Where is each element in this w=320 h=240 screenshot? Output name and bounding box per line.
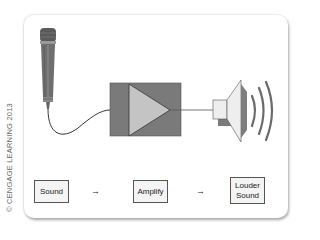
speaker-icon xyxy=(213,80,247,142)
flow-step-label-line2: Sound xyxy=(236,191,259,201)
flow-step-label: Amplify xyxy=(137,187,163,197)
flow-arrow-icon: → xyxy=(91,186,100,196)
flow-arrow-icon: → xyxy=(196,186,205,196)
flow-step-label: Sound xyxy=(40,187,63,197)
amplifier-icon xyxy=(110,83,181,136)
flow-step-sound: Sound xyxy=(34,180,69,203)
flow-step-louder-sound: Louder Sound xyxy=(230,177,265,204)
sound-waves-icon xyxy=(252,82,272,140)
flow-step-label-line1: Louder xyxy=(235,181,260,191)
microphone-icon xyxy=(40,28,56,109)
flow-step-amplify: Amplify xyxy=(133,180,168,203)
